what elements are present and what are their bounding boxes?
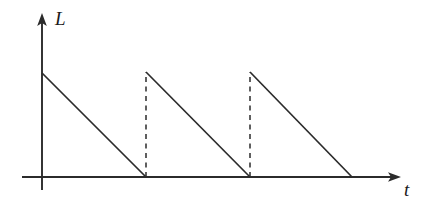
waveform-ramp-2 bbox=[146, 72, 250, 177]
chart-canvas bbox=[0, 0, 428, 218]
waveform-ramp-3 bbox=[250, 72, 352, 177]
waveform-ramp-1 bbox=[42, 73, 146, 177]
x-axis-label: t bbox=[404, 180, 409, 199]
sawtooth-figure: L t bbox=[0, 0, 428, 218]
y-axis-label: L bbox=[55, 9, 66, 28]
